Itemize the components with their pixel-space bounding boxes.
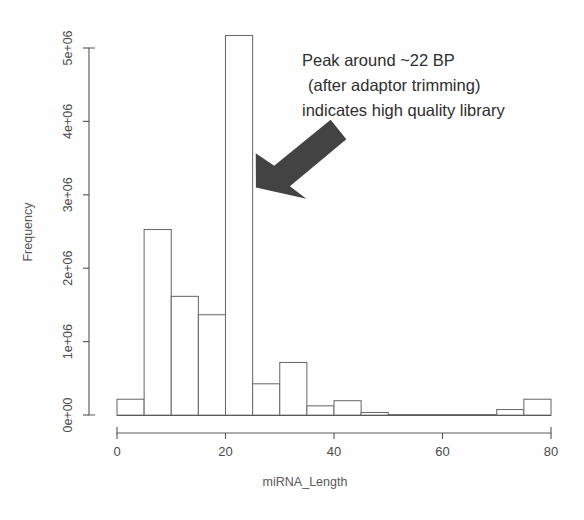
histogram-bar: [497, 410, 524, 416]
histogram-bar: [171, 296, 198, 415]
histogram-bar: [198, 315, 225, 416]
x-tick-label-40: 40: [327, 444, 341, 459]
histogram-bar: [144, 230, 171, 416]
y-tick-label-3: 3e+06: [61, 177, 75, 212]
x-axis-title: miRNA_Length: [263, 475, 348, 489]
histogram-bar: [226, 36, 253, 416]
histogram-bar: [117, 399, 144, 415]
plot-canvas: 0e+00 1e+06 2e+06 3e+06 4e+06 5e+06 Freq…: [0, 0, 584, 520]
histogram-figure: 0e+00 1e+06 2e+06 3e+06 4e+06 5e+06 Freq…: [0, 0, 584, 520]
y-axis: [83, 48, 95, 415]
annotation-line-1: Peak around ~22 BP: [302, 51, 455, 69]
x-tick-labels: 0 20 40 60 80: [113, 444, 558, 459]
y-tick-label-0: 0e+00: [61, 397, 75, 432]
x-tick-label-80: 80: [544, 444, 558, 459]
x-tick-label-0: 0: [113, 444, 120, 459]
peak-annotation: Peak around ~22 BP (after adaptor trimmi…: [302, 51, 505, 119]
x-tick-label-60: 60: [435, 444, 449, 459]
histogram-bar: [307, 406, 334, 416]
y-axis-title: Frequency: [21, 202, 35, 262]
y-tick-labels: 0e+00 1e+06 2e+06 3e+06 4e+06 5e+06: [61, 30, 75, 432]
annotation-line-2: (after adaptor trimming): [308, 76, 480, 94]
x-tick-label-20: 20: [218, 444, 232, 459]
x-axis-line: [117, 427, 551, 433]
x-axis: [117, 427, 551, 439]
histogram-bar: [524, 399, 551, 415]
y-tick-label-1: 1e+06: [61, 324, 75, 359]
y-tick-label-5: 5e+06: [61, 30, 75, 65]
y-tick-label-2: 2e+06: [61, 251, 75, 286]
y-axis-line: [89, 48, 95, 415]
histogram-bar: [253, 384, 280, 416]
histogram-bar: [334, 401, 361, 416]
annotation-line-3: indicates high quality library: [302, 101, 505, 119]
y-tick-label-4: 4e+06: [61, 104, 75, 139]
callout-arrow-icon: [254, 119, 349, 200]
histogram-bar: [280, 362, 307, 415]
